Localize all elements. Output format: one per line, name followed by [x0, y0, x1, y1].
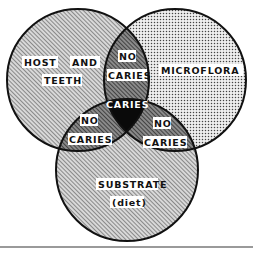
teeth-label: TEETH — [44, 75, 82, 86]
microflora-substrate-no-label: NO — [154, 118, 172, 129]
diet-label: (diet) — [112, 197, 147, 208]
host-substrate-caries-label: CARIES — [69, 134, 112, 145]
center-caries-label: CARIES — [106, 99, 149, 110]
host-microflora-caries-label: CARIES — [108, 70, 151, 81]
and-label: AND — [72, 57, 98, 68]
substrate-label: SUBSTRATE — [98, 179, 167, 190]
microflora-substrate-caries-label: CARIES — [144, 137, 187, 148]
microflora-label: MICROFLORA — [161, 65, 239, 76]
bottom-rule — [0, 246, 253, 248]
host-substrate-no-label: NO — [81, 115, 99, 126]
host-microflora-no-label: NO — [119, 51, 137, 62]
host-label: HOST — [24, 57, 57, 68]
venn-diagram: HOST AND TEETH MICROFLORA NO CARIES CARI… — [0, 0, 253, 254]
